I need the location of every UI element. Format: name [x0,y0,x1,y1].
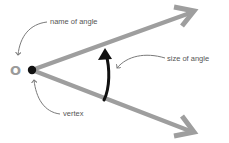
name-of-angle-label: name of angle [50,17,98,26]
vertex-dot [28,66,36,74]
angle-diagram: O name of angle size of angle vertex [0,0,229,143]
size-of-angle-label: size of angle [167,54,209,63]
vertex-label: vertex [63,109,84,118]
name-callout-arrow [18,22,47,55]
arc-arrowhead-icon [98,48,112,60]
vertex-letter: O [10,63,21,78]
size-callout-arrow [117,55,165,68]
lower-ray [32,70,194,136]
vertex-callout-arrow [34,80,60,114]
angle-arc-arrow [98,48,112,100]
